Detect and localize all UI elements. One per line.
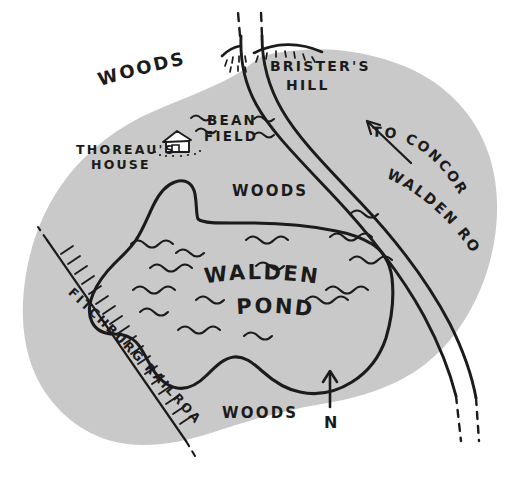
walden-pond-map: WOODS THOREAU'S HOUSE BEAN FIELD BRISTER…	[0, 0, 518, 487]
label-bean-field-line1: BEAN	[207, 112, 257, 128]
label-bristers-hill-line1: BRISTER'S	[270, 58, 371, 74]
label-thoreaus-house-line2: HOUSE	[91, 157, 151, 172]
map-canvas: WOODS THOREAU'S HOUSE BEAN FIELD BRISTER…	[0, 0, 518, 487]
walden-road-dash-north	[238, 12, 262, 36]
label-bristers-hill-line2: HILL	[286, 77, 330, 93]
walden-road-dash-south	[456, 396, 479, 441]
bristers-hill-arc-west	[222, 46, 240, 56]
label-thoreaus-house-line1: THOREAU'S	[76, 142, 176, 157]
label-bean-field-line2: FIELD	[204, 128, 258, 144]
label-woods-middle: WOODS	[232, 182, 308, 200]
label-walden-pond-line2: POND	[236, 294, 316, 322]
label-woods-lower: WOODS	[222, 404, 298, 422]
label-woods-upper: WOODS	[95, 47, 187, 89]
label-north: N	[324, 413, 340, 432]
